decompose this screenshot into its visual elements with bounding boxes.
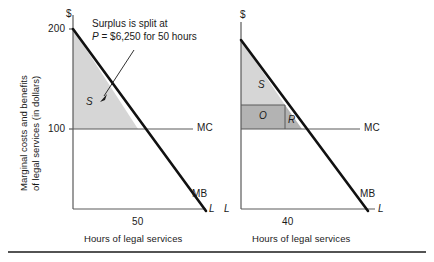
right-region-label-O: O xyxy=(259,110,267,121)
right-mb-label: MB xyxy=(360,188,375,199)
y-axis-label-line2: of legal services (in dollars) xyxy=(30,75,42,191)
right-x-tick-label-40: 40 xyxy=(282,216,294,227)
left-panel-graphic xyxy=(69,15,206,211)
right-region-label-R: R xyxy=(288,114,296,125)
right-L-label-left: L xyxy=(224,203,230,214)
figure-container: Marginal costs and benefits of legal ser… xyxy=(0,0,434,262)
y-axis-label-line1: Marginal costs and benefits xyxy=(18,75,30,191)
left-mc-label: MC xyxy=(197,122,213,133)
y-axis-label: Marginal costs and benefits of legal ser… xyxy=(18,75,41,191)
left-y-tick-label-100: 100 xyxy=(48,123,65,134)
left-dollar-sign: $ xyxy=(66,8,72,19)
right-L-endpoint-label: L xyxy=(378,203,384,214)
left-x-tick-label-50: 50 xyxy=(132,216,144,227)
left-mb-label: MB xyxy=(192,188,207,199)
surplus-annotation: Surplus is split at P = $6,250 for 50 ho… xyxy=(92,18,197,44)
surplus-annotation-line1: Surplus is split at xyxy=(92,18,197,31)
price-variable-symbol: P xyxy=(92,31,99,42)
left-surplus-label-S: S xyxy=(86,96,93,107)
left-y-tick-label-200: 200 xyxy=(48,23,65,34)
right-mc-label: MC xyxy=(364,122,380,133)
right-x-axis-caption: Hours of legal services xyxy=(252,234,350,245)
annotation-arrow-line xyxy=(104,50,134,96)
surplus-annotation-line2: P = $6,250 for 50 hours xyxy=(92,31,197,44)
right-surplus-label-S: S xyxy=(258,79,265,90)
left-x-axis-caption: Hours of legal services xyxy=(84,234,182,245)
price-value-text: = $6,250 for 50 hours xyxy=(99,31,197,42)
left-L-endpoint-label: L xyxy=(209,203,215,214)
right-dollar-sign: $ xyxy=(240,9,246,20)
